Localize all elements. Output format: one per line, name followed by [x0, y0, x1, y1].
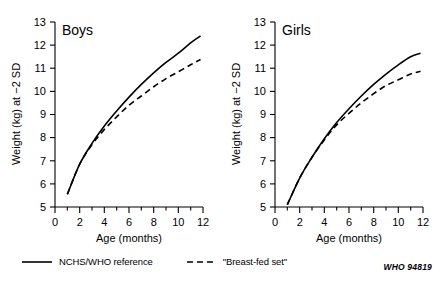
boys-x-axis-title: Age (months)	[96, 232, 162, 244]
boys-series-breast-fed-set	[67, 59, 200, 194]
boys-ytick-11: 11	[35, 62, 46, 74]
dashed-line-icon	[186, 257, 216, 267]
boys-ytick-6: 6	[40, 178, 46, 190]
boys-y-major-ticks	[50, 22, 55, 207]
girls-y-tick-labels: 5 6 7 8 9 10 11 12 13	[254, 16, 266, 213]
boys-y-axis-title: Weight (kg) at −2 SD	[10, 63, 22, 165]
girls-plot-svg: Girls 5 6 7	[220, 0, 440, 245]
figure-legend: NCHS/WHO reference "Breast-fed set" WHO …	[0, 248, 440, 290]
panel-title-girls: Girls	[282, 22, 311, 38]
legend-entry-nchs-who-reference: NCHS/WHO reference	[22, 256, 153, 267]
boys-xtick-8: 8	[151, 216, 157, 228]
girls-x-ticks	[275, 207, 423, 213]
boys-ytick-12: 12	[34, 39, 46, 51]
solid-line-icon	[22, 257, 52, 267]
boys-ytick-7: 7	[40, 155, 46, 167]
girls-series-nchs-who-reference	[287, 53, 420, 204]
boys-series-nchs-who-reference	[67, 36, 200, 194]
boys-y-tick-labels: 5 6 7 8 9 10 11 12 13	[34, 16, 46, 213]
panel-title-boys: Boys	[62, 22, 93, 38]
girls-series-breast-fed-set	[287, 71, 420, 204]
girls-y-major-ticks	[270, 22, 275, 207]
who-growth-chart-figure: Boys 5	[0, 0, 440, 290]
chart-panel-boys: Boys 5	[0, 0, 220, 245]
girls-ytick-10: 10	[254, 85, 266, 97]
boys-plot-svg: Boys 5	[0, 0, 220, 245]
boys-ytick-13: 13	[34, 16, 46, 28]
girls-ytick-12: 12	[254, 39, 266, 51]
girls-xtick-2: 2	[297, 216, 303, 228]
girls-ytick-6: 6	[260, 178, 266, 190]
boys-ytick-9: 9	[40, 108, 46, 120]
girls-xtick-12: 12	[417, 216, 429, 228]
boys-x-ticks	[55, 207, 203, 213]
boys-xtick-2: 2	[77, 216, 83, 228]
girls-y-axis-title: Weight (kg) at −2 SD	[230, 63, 242, 165]
boys-ytick-10: 10	[34, 85, 46, 97]
girls-xtick-6: 6	[346, 216, 352, 228]
girls-panel-title-group: Girls	[282, 22, 311, 38]
legend-label-breast-fed-set: "Breast-fed set"	[223, 256, 287, 267]
boys-ytick-5: 5	[40, 201, 46, 213]
boys-panel-title-group: Boys	[62, 22, 93, 38]
girls-x-axis-title: Age (months)	[316, 232, 382, 244]
girls-x-tick-labels: 0 2 4 6 8 10 12	[272, 216, 429, 228]
boys-xtick-10: 10	[172, 216, 184, 228]
legend-entries: NCHS/WHO reference "Breast-fed set"	[22, 256, 287, 267]
legend-label-nchs-who-reference: NCHS/WHO reference	[59, 256, 153, 267]
who-source-code: WHO 94819	[383, 262, 432, 272]
boys-xtick-4: 4	[101, 216, 107, 228]
legend-entry-breast-fed-set: "Breast-fed set"	[186, 256, 287, 267]
girls-ytick-13: 13	[254, 16, 266, 28]
boys-ytick-8: 8	[40, 131, 46, 143]
boys-x-tick-labels: 0 2 4 6 8 10 12	[52, 216, 209, 228]
girls-ytick-9: 9	[260, 108, 266, 120]
girls-xtick-4: 4	[321, 216, 327, 228]
girls-ytick-11: 11	[255, 62, 266, 74]
girls-ytick-8: 8	[260, 131, 266, 143]
boys-xtick-6: 6	[126, 216, 132, 228]
girls-xtick-10: 10	[392, 216, 404, 228]
girls-ytick-7: 7	[260, 155, 266, 167]
boys-xtick-0: 0	[52, 216, 58, 228]
chart-panels: Boys 5	[0, 0, 440, 245]
chart-panel-girls: Girls 5 6 7	[220, 0, 440, 245]
girls-xtick-8: 8	[371, 216, 377, 228]
girls-ytick-5: 5	[260, 201, 266, 213]
girls-xtick-0: 0	[272, 216, 278, 228]
boys-xtick-12: 12	[197, 216, 209, 228]
